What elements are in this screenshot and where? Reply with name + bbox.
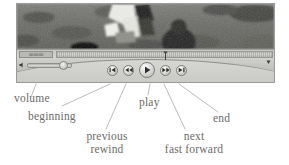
beginning-button[interactable] xyxy=(107,65,118,76)
label-rewind: rewind xyxy=(79,143,135,156)
scrubber-end-marker xyxy=(266,52,271,58)
end-button[interactable] xyxy=(176,65,187,76)
leader-next-fast-forward xyxy=(164,84,185,129)
leader-end xyxy=(179,84,218,112)
label-volume: volume xyxy=(14,92,50,104)
leader-previous-rewind xyxy=(106,84,126,129)
volume-slider-knob[interactable] xyxy=(59,61,68,70)
label-fast-forward: fast forward xyxy=(155,143,233,156)
timecode-display: 00:00:00 xyxy=(19,51,53,58)
scrubber-track[interactable] xyxy=(56,51,273,58)
label-beginning: beginning xyxy=(28,110,76,122)
speaker-icon xyxy=(19,62,25,68)
label-next-fast-forward: next fast forward xyxy=(155,130,233,155)
video-still-image xyxy=(17,4,274,49)
volume-control[interactable] xyxy=(19,61,79,70)
play-button[interactable] xyxy=(139,62,155,78)
label-end: end xyxy=(213,112,230,124)
transport-buttons xyxy=(107,60,187,80)
rewind-button[interactable] xyxy=(123,65,134,76)
diagram-root: 00:00:00 xyxy=(0,0,289,165)
fast-forward-icon xyxy=(162,67,170,73)
label-previous-rewind: previous rewind xyxy=(79,130,135,155)
leader-beginning xyxy=(62,84,110,106)
fast-forward-button[interactable] xyxy=(160,65,171,76)
label-next: next xyxy=(155,130,233,143)
label-previous: previous xyxy=(79,130,135,143)
label-play: play xyxy=(139,96,160,108)
play-icon xyxy=(144,66,151,74)
leader-play xyxy=(148,84,150,95)
rewind-icon xyxy=(125,67,133,73)
control-bar: 00:00:00 xyxy=(16,50,275,83)
skip-to-start-icon xyxy=(109,67,116,73)
quicktime-player: 00:00:00 xyxy=(16,3,275,83)
skip-to-end-icon xyxy=(178,67,185,73)
scrubber-row: 00:00:00 xyxy=(19,51,273,59)
video-frame[interactable] xyxy=(16,3,275,50)
playhead-marker[interactable] xyxy=(163,51,168,60)
